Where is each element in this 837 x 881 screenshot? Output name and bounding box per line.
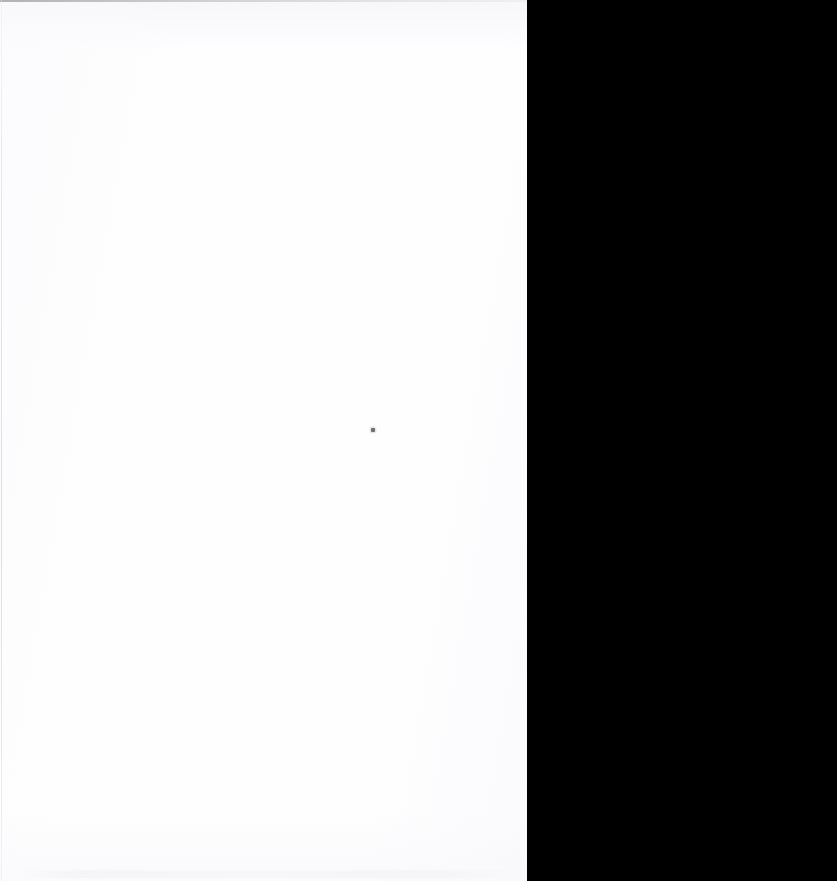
scan-canvas <box>0 0 837 881</box>
scanner-backing-region <box>527 0 837 881</box>
page-bottom-ghost-band <box>20 870 520 878</box>
dust-speck-artifact <box>371 428 375 432</box>
paper-grain-texture <box>0 0 560 881</box>
page-left-edge-hairline <box>1 0 2 881</box>
scanned-page-sheet <box>0 0 560 881</box>
page-top-edge-hairline <box>0 0 551 2</box>
